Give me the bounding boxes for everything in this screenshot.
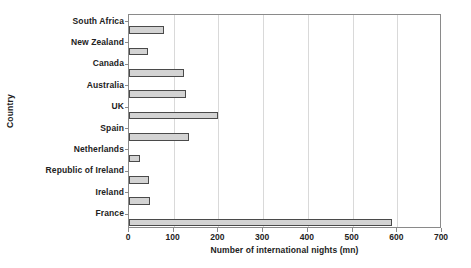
x-tick-label-700: 700 (421, 232, 461, 242)
y-tick-label-ireland: Ireland (4, 187, 124, 197)
y-tick-label-france: France (4, 208, 124, 218)
bar-row (129, 143, 440, 164)
bar-row (129, 15, 440, 36)
y-tick-1 (125, 42, 129, 43)
bar-chart: Country South AfricaNew ZealandCanadaAus… (0, 0, 471, 268)
x-tick-label-0: 0 (108, 232, 148, 242)
x-tick-label-500: 500 (332, 232, 372, 242)
y-tick-label-australia: Australia (4, 80, 124, 90)
y-tick-label-new-zealand: New Zealand (4, 37, 124, 47)
x-tick-label-400: 400 (287, 232, 327, 242)
bar-canada (129, 69, 184, 77)
bar-row (129, 165, 440, 186)
bar-row (129, 186, 440, 207)
bar-row (129, 101, 440, 122)
y-tick-2 (125, 64, 129, 65)
bar-row (129, 208, 440, 229)
y-tick-label-uk: UK (4, 101, 124, 111)
bar-row (129, 36, 440, 57)
bar-netherlands (129, 155, 140, 163)
y-tick-8 (125, 192, 129, 193)
y-tick-7 (125, 171, 129, 172)
bar-row (129, 122, 440, 143)
y-tick-label-netherlands: Netherlands (4, 144, 124, 154)
bar-new-zealand (129, 48, 148, 56)
bar-ireland (129, 197, 150, 205)
y-tick-5 (125, 128, 129, 129)
bar-row (129, 79, 440, 100)
plot-area (128, 14, 441, 228)
x-tick-label-100: 100 (153, 232, 193, 242)
x-tick-label-600: 600 (376, 232, 416, 242)
y-tick-label-republic-of-ireland: Republic of Ireland (4, 165, 124, 175)
x-tick-label-200: 200 (197, 232, 237, 242)
x-tick-label-300: 300 (242, 232, 282, 242)
y-tick-label-canada: Canada (4, 58, 124, 68)
bar-republic-of-ireland (129, 176, 149, 184)
y-tick-3 (125, 85, 129, 86)
bar-spain (129, 133, 189, 141)
y-tick-6 (125, 149, 129, 150)
y-axis-tick-labels: South AfricaNew ZealandCanadaAustraliaUK… (0, 14, 124, 228)
bar-australia (129, 90, 186, 98)
bar-row (129, 58, 440, 79)
y-tick-4 (125, 107, 129, 108)
y-tick-label-spain: Spain (4, 123, 124, 133)
bar-france (129, 219, 392, 227)
y-tick-9 (125, 214, 129, 215)
bar-south-africa (129, 26, 164, 34)
bar-uk (129, 112, 218, 120)
y-tick-0 (125, 21, 129, 22)
x-axis-title: Number of international nights (mn) (128, 245, 441, 255)
y-tick-label-south-africa: South Africa (4, 16, 124, 26)
